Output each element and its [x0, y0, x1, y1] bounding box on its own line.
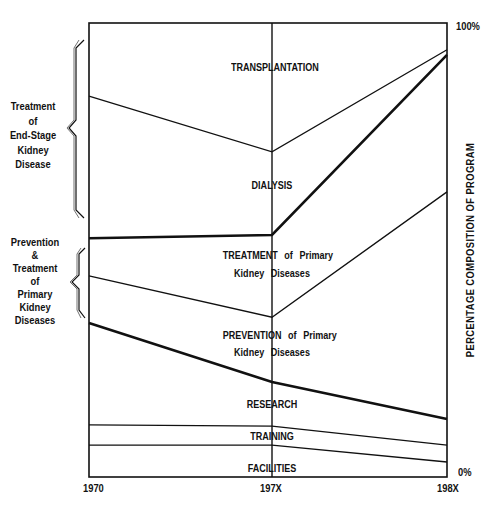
label-facilities: FACILITIES [239, 461, 305, 475]
label-treatment-primary-2: Kidney Diseases [231, 266, 313, 280]
group-end-stage-line: Kidney [7, 143, 60, 158]
group-label-end-stage: Treatment of End-Stage Kidney Disease [7, 99, 60, 172]
group-end-stage-line: End-Stage [7, 128, 60, 143]
x-tick-1970: 1970 [83, 482, 104, 494]
label-transplantation: TRANSPLANTATION [231, 60, 313, 74]
group-primary-line: Treatment [9, 262, 62, 275]
group-primary-line: of [9, 275, 62, 288]
group-end-stage-line: Disease [7, 157, 60, 172]
label-treatment-primary-1: TREATMENT of Primary [223, 248, 321, 262]
x-tick-197x: 197X [260, 482, 282, 494]
group-primary-line: Primary [9, 288, 62, 301]
label-prevention-primary-2: Kidney Diseases [231, 345, 313, 359]
y-tick-100: 100% [456, 20, 480, 32]
group-primary-line: & [9, 249, 62, 262]
group-primary-line: Prevention [9, 236, 62, 249]
y-axis-title: PERCENTAGE COMPOSITION OF PROGRAM [464, 143, 476, 357]
group-primary-line: Diseases [9, 314, 62, 327]
primary-bracket [72, 248, 85, 318]
x-tick-198x: 198X [437, 482, 459, 494]
boundary-line [89, 445, 447, 462]
y-tick-0: 0% [458, 466, 472, 478]
group-end-stage-line: Treatment [7, 99, 60, 114]
group-end-stage-line: of [7, 114, 60, 129]
label-dialysis: DIALYSIS [247, 178, 296, 192]
label-prevention-primary-1: PREVENTION of Primary [223, 328, 321, 342]
label-research: RESEARCH [239, 397, 305, 411]
boundary-line [89, 55, 447, 238]
label-training: TRAINING [239, 429, 305, 443]
end-stage-bracket [69, 40, 84, 218]
group-label-primary: Prevention & Treatment of Primary Kidney… [9, 236, 62, 327]
group-primary-line: Kidney [9, 301, 62, 314]
end-stage-bracket-inner [67, 40, 79, 218]
